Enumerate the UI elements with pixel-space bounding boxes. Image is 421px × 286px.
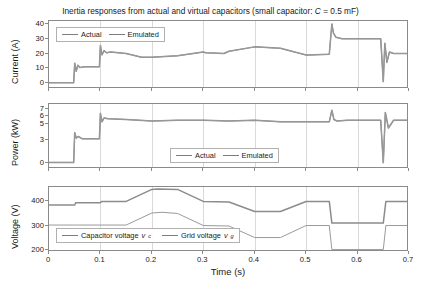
y-tick-label: 0 xyxy=(15,157,44,166)
legend-subscript-capacitor: c xyxy=(148,233,151,239)
y-tick-mark xyxy=(45,38,48,39)
y-tick-label: 30 xyxy=(15,33,44,42)
x-tick-label: 0.2 xyxy=(135,255,167,264)
x-tick-mark xyxy=(99,88,100,91)
x-tick-mark xyxy=(202,168,203,171)
y-tick-label: 0 xyxy=(15,78,44,87)
legend-label-capacitor-voltage: Capacitor voltage xyxy=(81,231,139,240)
y-tick-label: 5 xyxy=(15,119,44,128)
x-tick-mark xyxy=(48,168,49,171)
y-tick-label: 400 xyxy=(15,196,44,205)
legend-line-emulated-icon xyxy=(223,155,239,156)
legend-line-grid-icon xyxy=(162,235,178,236)
x-tick-mark xyxy=(151,251,152,254)
x-tick-mark xyxy=(202,88,203,91)
legend-item-emulated: Emulated xyxy=(109,30,159,39)
legend-symbol-grid: v xyxy=(224,231,228,240)
y-tick-label: 7 xyxy=(15,103,44,112)
x-tick-mark xyxy=(357,88,358,91)
x-tick-mark xyxy=(305,251,306,254)
y-tick-label: 10 xyxy=(15,63,44,72)
figure-root: Inertia responses from actual and virtua… xyxy=(0,0,421,286)
x-tick-mark xyxy=(202,251,203,254)
legend-item-actual: Actual xyxy=(62,30,102,39)
y-tick-mark xyxy=(45,225,48,226)
y-tick-mark xyxy=(45,53,48,54)
x-tick-label: 0.7 xyxy=(392,255,421,264)
legend-label-emulated: Emulated xyxy=(128,30,159,39)
figure-title-suffix: = 0.5 mF) xyxy=(321,6,359,16)
figure-title-prefix: Inertia responses from actual and virtua… xyxy=(62,6,315,16)
x-tick-label: 0.4 xyxy=(238,255,270,264)
legend-line-actual-icon xyxy=(176,155,192,156)
x-tick-label: 0.5 xyxy=(289,255,321,264)
y-tick-label: 3 xyxy=(15,134,44,143)
legend-subscript-grid: g xyxy=(231,233,234,239)
x-tick-mark xyxy=(357,251,358,254)
y-tick-mark xyxy=(45,162,48,163)
y-tick-label: 200 xyxy=(15,244,44,253)
legend-label-actual: Actual xyxy=(81,30,102,39)
legend-line-emulated-icon xyxy=(109,34,125,35)
x-tick-label: 0.6 xyxy=(341,255,373,264)
x-tick-mark xyxy=(99,168,100,171)
legend-voltage: Capacitor voltagevc Grid voltagevg xyxy=(56,228,240,243)
legend-item-actual-power: Actual xyxy=(176,151,216,160)
x-tick-mark xyxy=(305,88,306,91)
x-tick-mark xyxy=(151,168,152,171)
y-tick-label: 40 xyxy=(15,18,44,27)
x-tick-mark xyxy=(254,251,255,254)
x-tick-label: 0.1 xyxy=(83,255,115,264)
y-tick-mark xyxy=(45,67,48,68)
x-tick-mark xyxy=(48,88,49,91)
y-tick-mark xyxy=(45,108,48,109)
x-tick-label: 0 xyxy=(32,255,64,264)
legend-power: Actual Emulated xyxy=(170,148,279,163)
x-tick-mark xyxy=(408,88,409,91)
legend-label-grid-voltage: Grid voltage xyxy=(181,231,221,240)
legend-line-actual-icon xyxy=(62,34,78,35)
x-tick-mark xyxy=(305,168,306,171)
legend-item-emulated-power: Emulated xyxy=(223,151,273,160)
legend-item-grid-voltage: Grid voltagevg xyxy=(162,231,234,240)
y-tick-label: 6 xyxy=(15,111,44,120)
axis-label-time: Time (s) xyxy=(48,266,408,277)
x-tick-mark xyxy=(408,168,409,171)
x-tick-mark xyxy=(254,168,255,171)
x-tick-mark xyxy=(254,88,255,91)
y-tick-mark xyxy=(45,200,48,201)
y-tick-mark xyxy=(45,115,48,116)
y-tick-mark xyxy=(45,139,48,140)
y-tick-mark xyxy=(45,123,48,124)
legend-symbol-capacitor: v xyxy=(142,231,146,240)
x-tick-mark xyxy=(151,88,152,91)
series-line xyxy=(49,189,408,223)
x-tick-mark xyxy=(48,251,49,254)
y-tick-label: 300 xyxy=(15,220,44,229)
x-tick-label: 0.3 xyxy=(186,255,218,264)
figure-title: Inertia responses from actual and virtua… xyxy=(0,6,421,16)
legend-line-capacitor-icon xyxy=(62,235,78,236)
y-tick-mark xyxy=(45,82,48,83)
legend-item-capacitor-voltage: Capacitor voltagevc xyxy=(62,231,151,240)
y-tick-label: 20 xyxy=(15,48,44,57)
legend-current: Actual Emulated xyxy=(56,27,165,42)
legend-label-emulated: Emulated xyxy=(242,151,273,160)
legend-label-actual: Actual xyxy=(195,151,216,160)
x-tick-mark xyxy=(408,251,409,254)
x-tick-mark xyxy=(99,251,100,254)
y-tick-mark xyxy=(45,23,48,24)
y-tick-mark xyxy=(45,249,48,250)
x-tick-mark xyxy=(357,168,358,171)
